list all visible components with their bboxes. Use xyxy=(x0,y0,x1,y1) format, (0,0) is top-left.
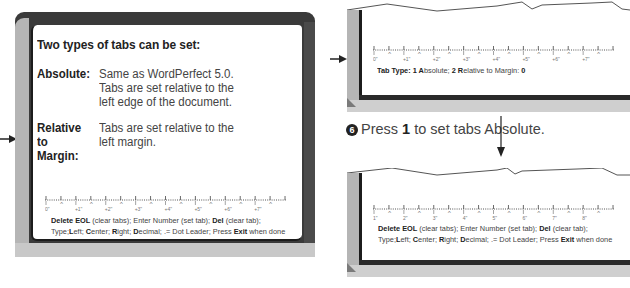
help-text: (clear tabs); Enter Number (set tab); xyxy=(90,216,212,225)
help-text: (clear tabs); Enter Number (set tab); xyxy=(417,224,539,233)
frame-bottom-bevel xyxy=(347,100,630,112)
frame-corner xyxy=(347,263,356,272)
ruler-label: 7" xyxy=(552,215,557,221)
tab-caret: ^ xyxy=(239,201,243,207)
ruler-graphic: ^^^^^^^^0"+1"+2"+3"+4"+5"+6"+7" xyxy=(45,195,290,213)
ruler-label: +2" xyxy=(105,206,113,212)
tab-caret: ^ xyxy=(537,51,541,57)
tab-caret: ^ xyxy=(507,51,511,57)
tab-caret: ^ xyxy=(597,210,601,216)
tab-caret: ^ xyxy=(567,51,571,57)
ruler-label: +5" xyxy=(194,206,202,212)
pointer-arrow-down xyxy=(496,116,506,158)
ruler-label: +3" xyxy=(463,56,471,62)
definition-description: Same as WordPerfect 5.0. Tabs are set re… xyxy=(99,67,246,109)
tab-ruler[interactable]: ^^^^^^^^0"+1"+2"+3"+4"+5"+6"+7" xyxy=(45,195,290,213)
prompt-value: 0 xyxy=(521,66,525,75)
tab-caret: ^ xyxy=(537,210,541,216)
tab-caret: ^ xyxy=(89,201,93,207)
frame-bottom-bevel xyxy=(15,243,315,257)
tab-ruler[interactable]: ^^^^^^^^0"+1"+2"+3"+4"+5"+6"+7" xyxy=(373,45,618,63)
ruler-label: +7" xyxy=(582,56,590,62)
tab-ruler[interactable]: ^^^^^^^^1"2"3"4"5"6"7"8" xyxy=(373,204,618,222)
tab-caret: ^ xyxy=(417,51,421,57)
tab-caret: ^ xyxy=(507,210,511,216)
ruler-label: +1" xyxy=(75,206,83,212)
help-text: ecimal; .= Dot Leader; Press xyxy=(466,235,561,244)
help-text: ecimal; .= Dot Leader; Press xyxy=(139,227,234,236)
tab-caret: ^ xyxy=(417,210,421,216)
help-line-2: Type;Left; Center; Right; Decimal; .= Do… xyxy=(51,227,285,237)
ruler-label: +5" xyxy=(522,56,530,62)
tab-caret: ^ xyxy=(477,210,481,216)
help-text: when done xyxy=(574,235,612,244)
tab-caret: ^ xyxy=(387,210,391,216)
frame-right-bevel xyxy=(304,22,315,243)
torn-edge xyxy=(347,168,630,182)
ruler-label: 5" xyxy=(493,215,498,221)
tab-caret: ^ xyxy=(59,201,63,207)
help-text: enter; xyxy=(418,235,439,244)
ruler-label: 1" xyxy=(373,215,378,221)
help-text: elative to Margin: xyxy=(463,66,521,75)
option-absolute-key: Tab Type: 1 A xyxy=(377,66,424,75)
ruler-label: +4" xyxy=(165,206,173,212)
step-key: 1 xyxy=(402,121,410,137)
help-line-1: Delete EOL (clear tabs); Enter Number (s… xyxy=(51,216,261,226)
ruler-label: 6" xyxy=(522,215,527,221)
ruler-label: +6" xyxy=(224,206,232,212)
frame-bottom-bevel xyxy=(347,265,630,277)
definition-term: Relative to Margin: xyxy=(37,121,89,163)
tab-type-prompt: Tab Type: 1 Absolute; 2 Relative to Marg… xyxy=(377,66,525,76)
ruler-label: +4" xyxy=(493,56,501,62)
left-monitor-frame: Two types of tabs can be set: Absolute: … xyxy=(15,12,315,257)
tab-caret: ^ xyxy=(269,201,273,207)
ruler-label: 4" xyxy=(463,215,468,221)
tab-caret: ^ xyxy=(387,51,391,57)
ruler-label: +3" xyxy=(135,206,143,212)
frame-left-bevel xyxy=(15,18,29,243)
ruler-label: +7" xyxy=(254,206,262,212)
help-text: ight; xyxy=(444,235,460,244)
help-text: when done xyxy=(247,227,285,236)
tab-caret: ^ xyxy=(597,51,601,57)
frame-left-bevel xyxy=(347,173,359,265)
frame-left-bevel xyxy=(347,10,359,100)
help-text: (clear tab); xyxy=(224,216,261,225)
tab-caret: ^ xyxy=(209,201,213,207)
key-exit: Exit xyxy=(561,235,574,244)
ruler-label: +1" xyxy=(403,56,411,62)
ruler-graphic: ^^^^^^^^0"+1"+2"+3"+4"+5"+6"+7" xyxy=(373,45,618,63)
right-bottom-screen-frame: ^^^^^^^^1"2"3"4"5"6"7"8" Delete EOL (cle… xyxy=(347,168,630,288)
definition-term: Absolute: xyxy=(37,67,94,109)
help-line-2: Type;Left; Center; Right; Decimal; .= Do… xyxy=(378,235,612,245)
frame-corner xyxy=(347,98,356,107)
definition-description: Tabs are set relative to the left margin… xyxy=(99,121,237,163)
step-number-badge: 6 xyxy=(346,124,358,136)
tab-caret: ^ xyxy=(179,201,183,207)
tab-caret: ^ xyxy=(477,51,481,57)
help-text: Type; xyxy=(51,227,69,236)
screen-left-edge xyxy=(359,10,362,98)
key-del: Del xyxy=(212,216,223,225)
definition-relative: Relative to Margin: Tabs are set relativ… xyxy=(37,121,287,163)
tab-caret: ^ xyxy=(447,51,451,57)
ruler-label: 3" xyxy=(433,215,438,221)
option-relative-key: 2 R xyxy=(452,66,463,75)
ruler-label: 2" xyxy=(403,215,408,221)
right-top-screen-frame: ^^^^^^^^0"+1"+2"+3"+4"+5"+6"+7" Tab Type… xyxy=(347,0,630,118)
tab-caret: ^ xyxy=(567,210,571,216)
help-text: eft; xyxy=(74,227,86,236)
pointer-arrow-right xyxy=(330,54,348,64)
ruler-label: 0" xyxy=(373,56,378,62)
tab-caret: ^ xyxy=(119,201,123,207)
screen-left-edge xyxy=(359,173,362,263)
torn-edge xyxy=(347,0,630,14)
help-text: (clear tab); xyxy=(551,224,588,233)
tab-type-definitions: Absolute: Same as WordPerfect 5.0. Tabs … xyxy=(37,67,287,175)
tab-caret: ^ xyxy=(149,201,153,207)
step-text: Press xyxy=(361,121,402,137)
help-text: Type; xyxy=(378,235,396,244)
help-text: enter; xyxy=(91,227,112,236)
key-del: Del xyxy=(539,224,550,233)
